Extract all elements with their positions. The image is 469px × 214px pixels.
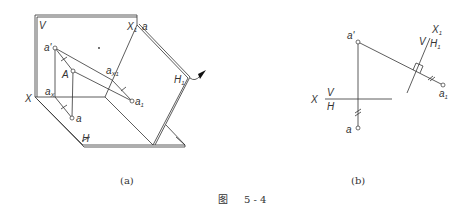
label-H-b: H (327, 101, 335, 112)
label-X: X (24, 93, 32, 104)
v-plane-frame-inner (37, 17, 137, 97)
label-V: V (39, 20, 47, 31)
label-a1-b: a1 (439, 88, 448, 100)
point-aprime-b (356, 40, 360, 44)
h-fold-line (105, 97, 153, 145)
h-plane-frame-inner (37, 99, 185, 147)
v-plane-frame (35, 15, 137, 97)
label-a: a (76, 113, 82, 124)
label-H: H (82, 133, 90, 144)
label-ax1: aX1 (106, 65, 119, 77)
label-ax: aX (45, 86, 56, 98)
figure-5-4: V a' A X aX a aX1 a1 X1 a H1 H a' a X V … (0, 0, 469, 214)
label-X1: X1 (126, 21, 137, 33)
proj-A-a1 (73, 71, 132, 101)
h-plane-frame (35, 97, 185, 145)
label-A: A (61, 69, 69, 80)
label-X1-b: X1 (431, 24, 442, 36)
rotation-arc (190, 76, 200, 80)
label-a-top: a (142, 21, 148, 32)
tick-mark (61, 57, 67, 61)
label-aprime: a' (44, 42, 53, 53)
label-V-b: V (327, 87, 335, 98)
figure-caption-number: 5 - 4 (244, 194, 266, 205)
label-X-b: X (310, 94, 318, 105)
label-a1: a1 (135, 96, 144, 108)
tick-mark (121, 87, 126, 91)
label-aprime-b: a' (347, 30, 356, 41)
point-aprime (53, 46, 57, 50)
point-A (71, 69, 75, 73)
subfig-a-caption: (a) (120, 175, 134, 186)
point-a1-b (441, 83, 445, 87)
rotation-arrow-icon (198, 70, 206, 79)
point-a1 (130, 99, 134, 103)
point-a-b (356, 126, 360, 130)
center-dot (98, 47, 100, 49)
point-a (70, 116, 74, 120)
proj-A-a (72, 71, 73, 118)
right-angle-mark (413, 63, 423, 73)
diagram-a: V a' A X aX a aX1 a1 X1 a H1 H (24, 15, 206, 147)
label-V-new-b: V (419, 36, 427, 47)
label-H1-b: H1 (430, 38, 441, 50)
proj-aprime-A (55, 48, 73, 71)
label-a-b: a (346, 124, 352, 135)
diagram-b: a' a X V H X1 V H1 a1 (310, 24, 448, 135)
subfig-b-caption: (b) (351, 175, 365, 186)
figure-caption-prefix: 图 (218, 194, 228, 205)
h1-support (166, 125, 185, 145)
x1-axis-a (105, 25, 137, 97)
label-H1: H1 (174, 74, 185, 86)
